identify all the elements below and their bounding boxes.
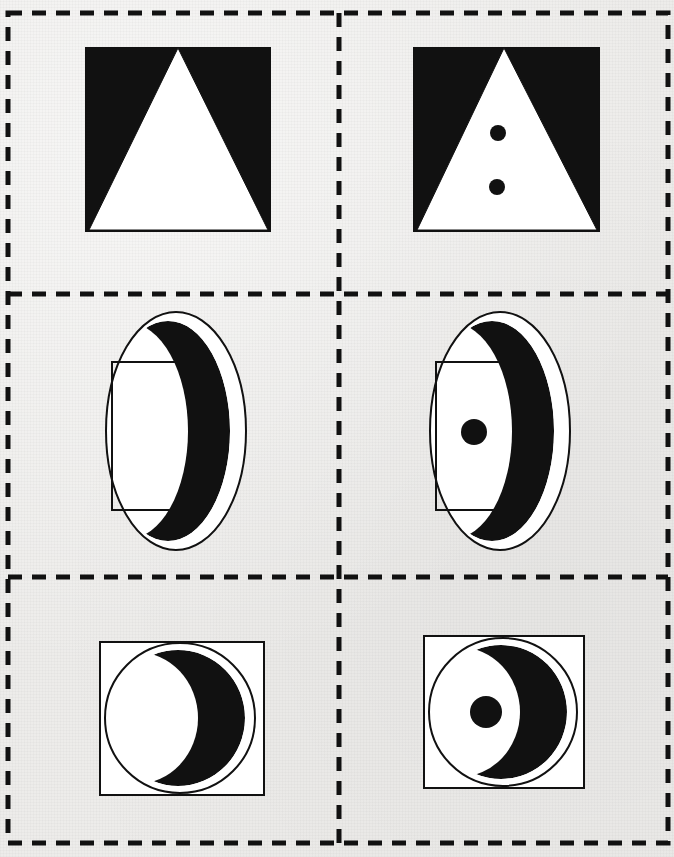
dot-lower [489, 179, 505, 195]
cell-r1c1[interactable] [85, 47, 271, 232]
black-crescent [106, 321, 230, 541]
dot-center [461, 419, 487, 445]
black-crescent [430, 321, 554, 541]
matrix-canvas [0, 0, 674, 857]
cell-r3c2[interactable] [424, 636, 584, 788]
cell-r3c1[interactable] [100, 642, 264, 795]
black-crescent [111, 650, 245, 786]
dot-upper [490, 125, 506, 141]
cell-r2c2[interactable] [430, 312, 570, 550]
cell-r1c2[interactable] [413, 47, 600, 232]
dot-center [470, 696, 502, 728]
figure-matrix-sheet [0, 0, 674, 857]
cell-r2c1[interactable] [106, 312, 246, 550]
